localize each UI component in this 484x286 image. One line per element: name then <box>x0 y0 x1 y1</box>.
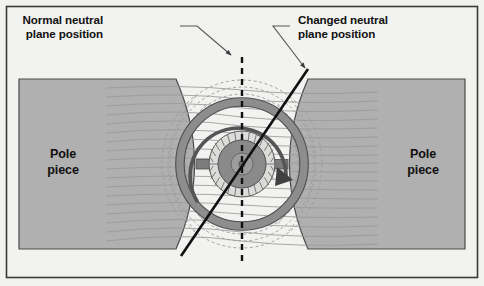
callout-normal-line1: Normal neutral <box>23 13 103 26</box>
right-pole-label-line1: Pole <box>410 147 436 161</box>
left-pole-label-line2: piece <box>47 163 79 177</box>
diagram-canvas: Normal neutral plane position Changed ne… <box>0 0 484 286</box>
right-pole-label-line2: piece <box>407 163 439 177</box>
callout-changed-line1: Changed neutral <box>298 13 388 26</box>
callout-normal-neutral-plane: Normal neutral plane position <box>23 13 103 40</box>
left-pole-label-line1: Pole <box>50 147 76 161</box>
callout-normal-line2: plane position <box>26 27 103 40</box>
callout-changed-line2: plane position <box>298 27 375 40</box>
armature-reaction-figure: Normal neutral plane position Changed ne… <box>0 0 484 286</box>
callout-changed-neutral-plane: Changed neutral plane position <box>298 13 388 40</box>
